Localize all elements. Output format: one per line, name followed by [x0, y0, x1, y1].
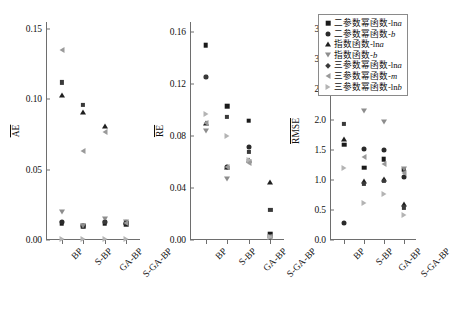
y-tick-label: 0.0 — [314, 235, 330, 245]
x-tick-label-ga-bp: GA-BP — [117, 246, 144, 273]
legend-label: 指数函数-b — [334, 50, 377, 61]
y-tick-mark — [330, 119, 334, 120]
legend-item[interactable]: 二参数幂函数-b — [323, 29, 402, 40]
y-tick-mark — [190, 32, 194, 33]
y-tick-mark — [330, 240, 334, 241]
y-tick-label: 0.05 — [26, 165, 46, 175]
chart-panel-ae: 0.000.050.100.15AEBPS-BPGA-BPS-GA-BP — [46, 22, 140, 240]
x-tick-label-s-ga-bp: S-GA-BP — [285, 246, 318, 279]
legend-label: 二参数幂函数-lna — [334, 18, 402, 29]
triangle-left-icon — [323, 71, 334, 82]
legend-label-prefix: 三参数幂函数- — [334, 71, 391, 81]
y-tick-mark — [330, 149, 334, 150]
x-tick-label-s-bp: S-BP — [374, 246, 395, 267]
x-tick-label-ga-bp: GA-BP — [396, 246, 423, 273]
x-tick-label-s-bp: S-BP — [237, 246, 258, 267]
y-tick-mark — [46, 99, 50, 100]
legend-label-prefix: 三参数幂函数-ln — [334, 82, 398, 92]
y-axis-title-rmse: RMSE — [291, 118, 301, 144]
legend-label-prefix: 三参数幂函数-ln — [334, 60, 398, 70]
legend-label: 指数函数-lna — [334, 39, 384, 50]
legend-label-prefix: 指数函数- — [334, 50, 373, 60]
legend-label: 三参数幂函数-lnb — [334, 82, 402, 93]
y-tick-label: 2.0 — [314, 115, 330, 125]
y-tick-mark — [190, 188, 194, 189]
y-tick-mark — [190, 240, 194, 241]
x-tick-mark — [206, 240, 207, 244]
x-tick-mark — [249, 240, 250, 244]
x-tick-mark — [364, 240, 365, 244]
legend-label-symbol: b — [398, 82, 402, 92]
legend-label-symbol: m — [391, 71, 397, 81]
y-tick-label: 1.0 — [314, 175, 330, 185]
x-tick-label-s-ga-bp: S-GA-BP — [141, 246, 174, 279]
panel-axes — [46, 22, 140, 240]
x-tick-mark — [344, 240, 345, 244]
y-tick-mark — [330, 179, 334, 180]
y-tick-label: 1.5 — [314, 145, 330, 155]
y-tick-label: 0.15 — [26, 24, 46, 34]
x-tick-mark — [227, 240, 228, 244]
y-tick-label: 0.04 — [170, 183, 190, 193]
legend-label: 三参数幂函数-lna — [334, 60, 402, 71]
y-tick-label: 0.16 — [170, 27, 190, 37]
x-tick-label-s-bp: S-BP — [93, 246, 114, 267]
legend-label-prefix: 二参数幂函数-ln — [334, 18, 398, 28]
legend-item[interactable]: 三参数幂函数-lna — [323, 60, 402, 71]
legend-label-symbol: a — [398, 60, 402, 70]
legend-label: 三参数幂函数-m — [334, 71, 397, 82]
y-tick-mark — [190, 136, 194, 137]
legend-item[interactable]: 三参数幂函数-m — [323, 71, 402, 82]
legend-label: 二参数幂函数-b — [334, 29, 395, 40]
x-tick-mark — [270, 240, 271, 244]
triangle-up-icon — [323, 39, 334, 50]
legend: 二参数幂函数-lna二参数幂函数-b指数函数-lna指数函数-b三参数幂函数-l… — [318, 14, 408, 96]
y-tick-label: 0.12 — [170, 79, 190, 89]
y-tick-label: 0.00 — [26, 235, 46, 245]
y-tick-mark — [46, 169, 50, 170]
circle-icon — [323, 29, 334, 40]
legend-item[interactable]: 指数函数-b — [323, 50, 402, 61]
y-tick-label: 0.5 — [314, 205, 330, 215]
y-tick-label: 0.10 — [26, 94, 46, 104]
x-tick-label-bp: BP — [213, 246, 228, 261]
y-tick-mark — [46, 240, 50, 241]
y-tick-label: 0.08 — [170, 131, 190, 141]
x-tick-label-bp: BP — [69, 246, 84, 261]
triangle-down-icon — [323, 50, 334, 61]
triangle-right-icon — [323, 82, 334, 93]
legend-label-prefix: 二参数幂函数- — [334, 29, 391, 39]
chart-panel-re: 0.000.040.080.120.16REBPS-BPGA-BPS-GA-BP — [190, 22, 284, 240]
legend-label-symbol: b — [373, 50, 377, 60]
legend-label-prefix: 指数函数-ln — [334, 39, 380, 49]
y-axis-title-re: RE — [155, 125, 165, 137]
x-tick-label-bp: BP — [352, 246, 367, 261]
legend-item[interactable]: 二参数幂函数-lna — [323, 18, 402, 29]
x-tick-mark — [404, 240, 405, 244]
y-tick-mark — [190, 84, 194, 85]
legend-label-symbol: b — [391, 29, 395, 39]
y-axis-title-ae: AE — [11, 125, 21, 138]
x-tick-label-ga-bp: GA-BP — [261, 246, 288, 273]
legend-label-symbol: a — [380, 39, 384, 49]
y-tick-mark — [330, 209, 334, 210]
diamond-icon — [323, 60, 334, 71]
legend-label-symbol: a — [398, 18, 402, 28]
y-tick-label: 0.00 — [170, 235, 190, 245]
legend-item[interactable]: 三参数幂函数-lnb — [323, 82, 402, 93]
x-tick-label-s-ga-bp: S-GA-BP — [418, 246, 451, 279]
square-icon — [323, 18, 334, 29]
y-tick-mark — [46, 29, 50, 30]
x-tick-mark — [384, 240, 385, 244]
legend-item[interactable]: 指数函数-lna — [323, 39, 402, 50]
